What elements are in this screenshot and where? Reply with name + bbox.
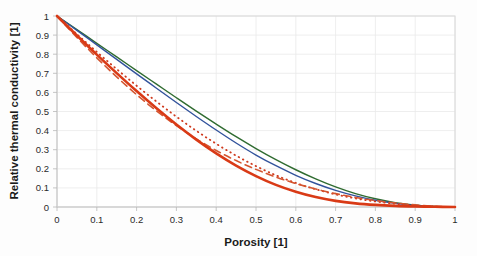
y-tick-label: 0.4: [36, 125, 49, 136]
y-tick-label: 0.5: [36, 106, 49, 117]
y-tick-label: 0: [44, 202, 49, 213]
x-tick-label: 0.8: [369, 214, 382, 225]
x-tick-label: 0.5: [249, 214, 262, 225]
y-axis-ticks: 00.10.20.30.40.50.60.70.80.91: [36, 11, 57, 213]
y-tick-label: 0.2: [36, 163, 49, 174]
y-tick-label: 0.8: [36, 49, 49, 60]
y-tick-label: 0.7: [36, 68, 49, 79]
chart-figure: 00.10.20.30.40.50.60.70.80.91 00.10.20.3…: [0, 0, 477, 256]
chart-canvas: 00.10.20.30.40.50.60.70.80.91 00.10.20.3…: [0, 0, 477, 256]
y-tick-label: 1: [44, 11, 49, 22]
x-tick-label: 0.2: [130, 214, 143, 225]
x-tick-label: 0.7: [329, 214, 342, 225]
x-tick-label: 0.1: [90, 214, 103, 225]
y-tick-label: 0.1: [36, 182, 49, 193]
x-tick-label: 0.4: [210, 214, 223, 225]
y-tick-label: 0.6: [36, 87, 49, 98]
x-tick-label: 0: [54, 214, 59, 225]
x-axis-ticks: 00.10.20.30.40.50.60.70.80.91: [54, 207, 457, 225]
x-tick-label: 0.9: [409, 214, 422, 225]
x-tick-label: 0.6: [289, 214, 302, 225]
x-tick-label: 0.3: [170, 214, 183, 225]
x-tick-label: 1: [452, 214, 457, 225]
y-axis-title: Relative thermal conductivity [1]: [8, 22, 20, 199]
y-tick-label: 0.3: [36, 144, 49, 155]
y-tick-label: 0.9: [36, 30, 49, 41]
x-axis-title: Porosity [1]: [224, 236, 287, 248]
